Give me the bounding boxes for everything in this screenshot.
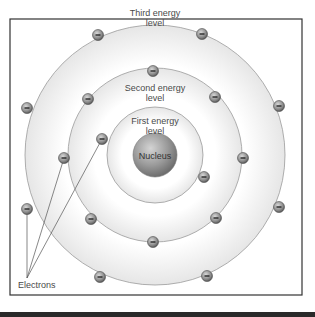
- third-level-label-line1: Third energy: [115, 8, 195, 18]
- electron-icon: [202, 271, 213, 282]
- electron-icon: [148, 237, 159, 248]
- electron-icon: [211, 213, 222, 224]
- first-level-label-line2: level: [115, 126, 195, 136]
- electron-icon: [210, 92, 221, 103]
- electron-icon: [238, 153, 249, 164]
- first-level-label: First energy level: [115, 116, 195, 136]
- page-separator: [0, 312, 315, 317]
- electron-icon: [199, 172, 210, 183]
- third-level-label: Third energy level: [115, 8, 195, 28]
- electron-icon: [22, 103, 33, 114]
- electron-icon: [22, 204, 33, 215]
- first-level-label-line1: First energy: [115, 116, 195, 126]
- third-level-label-line2: level: [115, 18, 195, 28]
- second-level-label: Second energy level: [110, 83, 200, 103]
- second-level-label-line2: level: [110, 93, 200, 103]
- second-level-label-line1: Second energy: [110, 83, 200, 93]
- electron-icon: [95, 272, 106, 283]
- electron-icon: [93, 30, 104, 41]
- electrons-label: Electrons: [18, 280, 68, 290]
- electron-icon: [59, 153, 70, 164]
- electron-icon: [274, 101, 285, 112]
- electron-icon: [197, 29, 208, 40]
- electron-icon: [86, 214, 97, 225]
- electron-icon: [148, 66, 159, 77]
- electron-icon: [274, 202, 285, 213]
- nucleus-label: Nucleus: [125, 151, 185, 161]
- electron-icon: [83, 94, 94, 105]
- electron-icon: [97, 134, 108, 145]
- atom-diagram: Third energy level Second energy level F…: [0, 0, 315, 317]
